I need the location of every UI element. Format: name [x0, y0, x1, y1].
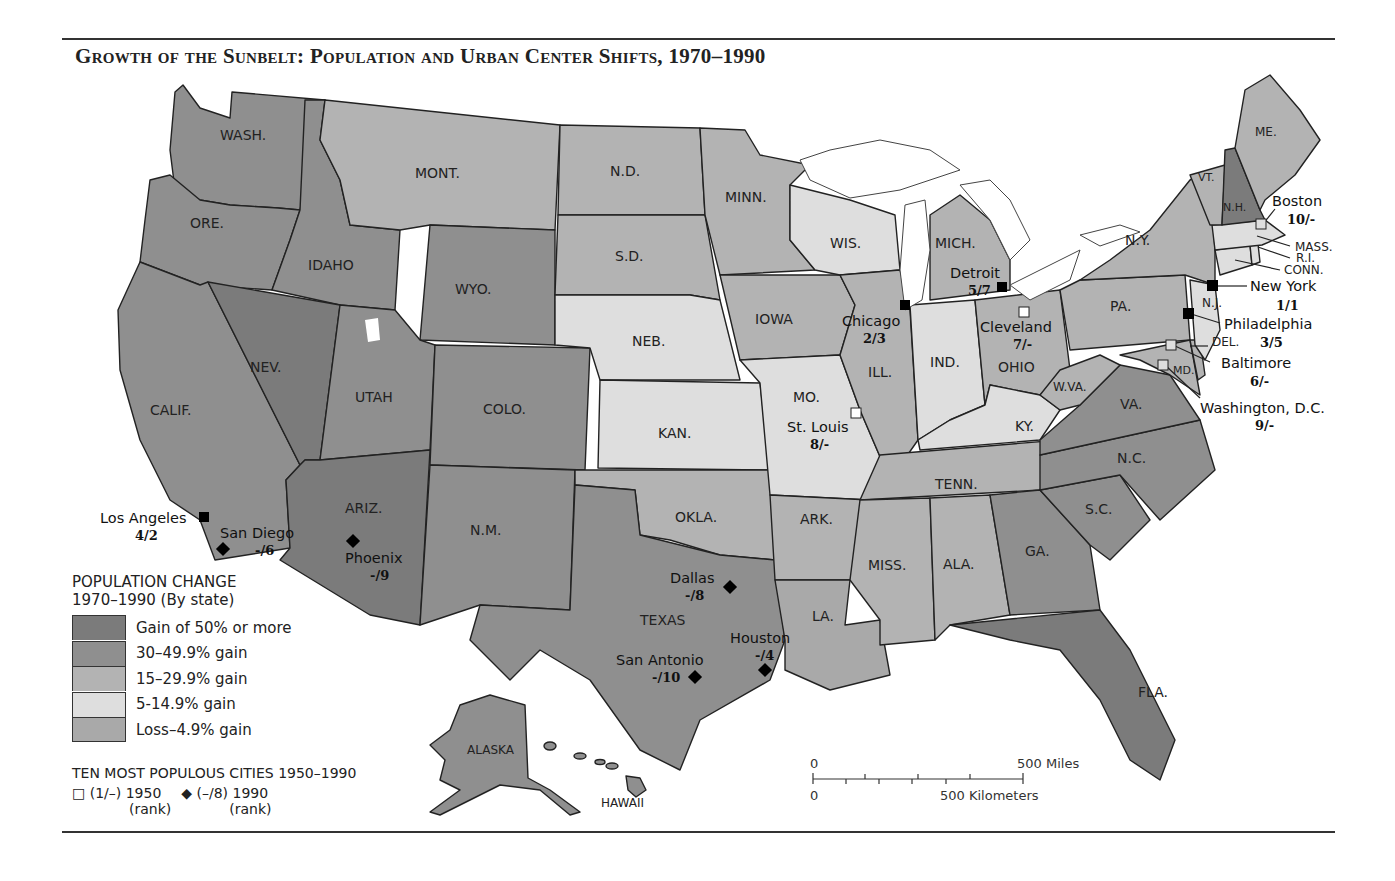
city-philadelphia: Philadelphia: [1224, 316, 1312, 332]
label-id: IDAHO: [308, 257, 354, 273]
scale-zero-miles: 0: [810, 756, 818, 771]
label-ga: GA.: [1025, 543, 1050, 559]
label-wy: WYO.: [455, 281, 492, 297]
label-oh: OHIO: [998, 359, 1035, 375]
legend-item: 5-14.9% gain: [72, 692, 292, 718]
label-me: ME.: [1255, 125, 1277, 139]
rank-st-louis: 8/-: [810, 437, 829, 452]
city-st-louis: St. Louis: [787, 419, 849, 435]
rank-los-angeles: 4/2: [135, 528, 158, 543]
label-ky: KY.: [1015, 418, 1034, 434]
city-washington-dc: Washington, D.C.: [1200, 400, 1325, 416]
label-ks: KAN.: [658, 425, 691, 441]
scale-km-label: 500 Kilometers: [940, 788, 1039, 803]
marker-st-louis: [851, 408, 861, 418]
cities-legend: TEN MOST POPULOUS CITIES 1950–1990 □ (1/…: [72, 765, 356, 817]
legend-swatch: [72, 666, 126, 691]
us-map: WASH. ORE. CALIF. IDAHO NEV. MONT. WYO. …: [0, 0, 1395, 881]
rank-cleveland: 7/-: [1013, 337, 1032, 352]
label-ia: IOWA: [755, 311, 793, 327]
rank-new-york: 1/1: [1276, 298, 1299, 313]
legend-item: Gain of 50% or more: [72, 615, 292, 641]
city-san-antonio: San Antonio: [616, 652, 704, 668]
label-mn: MINN.: [725, 189, 767, 205]
label-tx: TEXAS: [639, 612, 686, 628]
label-ok: OKLA.: [675, 509, 717, 525]
marker-boston: [1256, 219, 1266, 229]
scale-ruler: [806, 770, 1056, 790]
city-san-diego: San Diego: [220, 525, 294, 541]
rank-washington-dc: 9/-: [1255, 418, 1274, 433]
state-nm: [420, 465, 575, 625]
label-sc: S.C.: [1085, 501, 1113, 517]
city-boston: Boston: [1272, 193, 1322, 209]
legend-swatch: [72, 641, 126, 666]
rank-baltimore: 6/-: [1250, 374, 1269, 389]
legend-swatch: [72, 692, 126, 717]
rank-san-diego: -/6: [255, 543, 274, 558]
label-la: LA.: [812, 608, 834, 624]
label-mi: MICH.: [935, 235, 976, 251]
legend-subheading: 1970–1990 (By state): [72, 591, 292, 609]
label-sd: S.D.: [615, 248, 644, 264]
label-tn: TENN.: [934, 476, 978, 492]
rank-san-antonio: -/10: [652, 670, 680, 685]
legend-1950-label: (1/–) 1950: [90, 785, 162, 801]
legend-item: Loss–4.9% gain: [72, 717, 292, 743]
label-nc: N.C.: [1117, 450, 1146, 466]
rank-detroit: 5/7: [968, 283, 991, 298]
label-ut: UTAH: [355, 389, 393, 405]
label-mt: MONT.: [415, 165, 460, 181]
label-hi: HAWAII: [601, 796, 644, 810]
label-pa: PA.: [1110, 298, 1131, 314]
state-hi: [544, 742, 646, 797]
city-houston: Houston: [730, 630, 790, 646]
legend-swatch: [72, 717, 126, 742]
label-ar: ARK.: [800, 511, 833, 527]
rank-note-1950: (rank): [72, 801, 171, 817]
marker-baltimore: [1166, 340, 1176, 350]
rank-boston: 10/-: [1287, 212, 1315, 227]
label-nj: N.J.: [1202, 296, 1222, 310]
scale-miles-label: 500 Miles: [1017, 756, 1079, 771]
label-in: IND.: [930, 354, 960, 370]
label-nh: N.H.: [1223, 201, 1246, 214]
marker-new-york: [1207, 280, 1218, 291]
scale-zero-km: 0: [810, 788, 818, 803]
marker-washington: [1158, 360, 1168, 370]
label-nm: N.M.: [470, 522, 501, 538]
label-ne: NEB.: [632, 333, 665, 349]
label-ca: CALIF.: [150, 402, 192, 418]
marker-chicago: [900, 300, 910, 310]
city-dallas: Dallas: [670, 570, 715, 586]
marker-cleveland: [1019, 307, 1029, 317]
scale-bar: 0 500 Miles 0 500 Kilometers: [806, 756, 1086, 806]
rank-chicago: 2/3: [863, 331, 886, 346]
label-nd: N.D.: [610, 163, 640, 179]
label-az: ARIZ.: [345, 500, 382, 516]
label-vt: VT.: [1198, 171, 1214, 184]
label-nv: NEV.: [250, 359, 282, 375]
label-fl: FLA.: [1138, 684, 1168, 700]
label-ny: N.Y.: [1125, 232, 1150, 248]
label-wv: W.VA.: [1053, 380, 1087, 394]
rank-note-1990: (rank): [181, 801, 271, 817]
label-al: ALA.: [943, 556, 974, 572]
label-or: ORE.: [190, 215, 224, 231]
population-change-legend: POPULATION CHANGE 1970–1990 (By state) G…: [72, 573, 292, 743]
legend-swatch: [72, 615, 126, 640]
marker-philadelphia: [1183, 308, 1194, 319]
city-los-angeles: Los Angeles: [100, 510, 187, 526]
marker-detroit: [997, 282, 1007, 292]
city-cleveland: Cleveland: [980, 319, 1052, 335]
city-new-york: New York: [1250, 278, 1317, 294]
label-il: ILL.: [868, 364, 892, 380]
city-phoenix: Phoenix: [345, 550, 403, 566]
legend-heading: POPULATION CHANGE: [72, 573, 292, 591]
label-ak: ALASKA: [467, 743, 515, 757]
legend-1990-label: (–/8) 1990: [196, 785, 268, 801]
label-ct: CONN.: [1284, 263, 1324, 277]
label-de: DEL.: [1212, 335, 1239, 349]
label-wa: WASH.: [220, 127, 266, 143]
legend-item: 15–29.9% gain: [72, 666, 292, 692]
